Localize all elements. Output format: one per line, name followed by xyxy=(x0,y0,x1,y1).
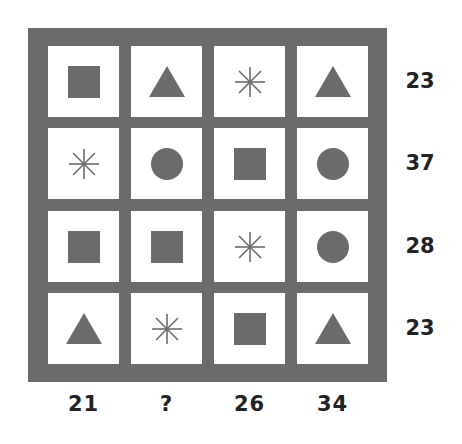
circle-icon xyxy=(317,148,349,180)
grid-cell xyxy=(131,46,202,117)
grid-cell xyxy=(297,211,368,282)
grid-cell xyxy=(131,211,202,282)
circle-icon xyxy=(317,231,349,263)
asterisk-icon xyxy=(151,313,183,345)
triangle-icon xyxy=(315,313,351,345)
column-sum-label: 21 xyxy=(48,392,119,416)
column-sum-label: 26 xyxy=(214,392,285,416)
row-sum-label: 37 xyxy=(398,151,442,175)
grid-cell xyxy=(131,128,202,199)
square-icon xyxy=(234,148,266,180)
square-icon xyxy=(234,313,266,345)
grid-cell xyxy=(131,293,202,364)
grid-cell xyxy=(48,128,119,199)
triangle-icon xyxy=(149,66,185,98)
square-icon xyxy=(151,231,183,263)
grid-cell xyxy=(214,128,285,199)
grid-cell xyxy=(297,293,368,364)
asterisk-icon xyxy=(234,66,266,98)
circle-icon xyxy=(151,148,183,180)
row-sum-label: 23 xyxy=(398,69,442,93)
triangle-icon xyxy=(66,313,102,345)
grid-cell xyxy=(297,46,368,117)
grid-cell xyxy=(214,46,285,117)
asterisk-icon xyxy=(234,231,266,263)
grid-cell xyxy=(48,293,119,364)
asterisk-icon xyxy=(68,148,100,180)
triangle-icon xyxy=(315,66,351,98)
square-icon xyxy=(68,231,100,263)
column-sum-label: 34 xyxy=(297,392,368,416)
grid-cell xyxy=(48,46,119,117)
grid-cell xyxy=(214,293,285,364)
row-sum-label: 28 xyxy=(398,234,442,258)
grid-cell xyxy=(214,211,285,282)
grid-cell xyxy=(48,211,119,282)
unknown-column-sum: ? xyxy=(131,392,202,416)
square-icon xyxy=(68,66,100,98)
row-sum-label: 23 xyxy=(398,316,442,340)
grid-cell xyxy=(297,128,368,199)
